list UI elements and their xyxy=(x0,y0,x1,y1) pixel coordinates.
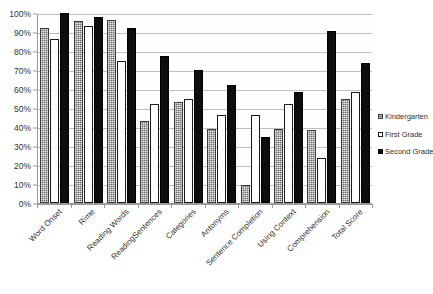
bar-group xyxy=(238,14,271,203)
legend-swatch-icon xyxy=(378,132,383,137)
bar-first xyxy=(317,158,326,203)
y-axis-tick-label: 20% xyxy=(14,162,31,171)
bar-group xyxy=(172,14,205,203)
x-axis-labels: Word OnsetRimeReading WordsReadingSenten… xyxy=(37,208,372,294)
bar-first xyxy=(50,39,59,203)
legend-label: Kindergarten xyxy=(385,113,428,121)
legend-label: First Grade xyxy=(385,131,423,139)
bar-kindergarten xyxy=(174,102,183,203)
bar-second xyxy=(361,63,370,203)
y-axis-tick-label: 30% xyxy=(14,143,31,152)
bar-second xyxy=(194,70,203,203)
bar-group xyxy=(105,14,138,203)
bar-first xyxy=(184,99,193,204)
bar-second xyxy=(227,85,236,203)
y-axis-tick-label: 0% xyxy=(19,200,31,209)
x-axis-tick xyxy=(372,204,373,208)
y-axis: 0%10%20%30%40%50%60%70%80%90%100% xyxy=(0,14,34,204)
y-axis-tick-label: 90% xyxy=(14,29,31,38)
bar-second xyxy=(94,17,103,203)
bar-kindergarten xyxy=(107,20,116,203)
bar-second xyxy=(127,28,136,203)
bar-first xyxy=(251,115,260,203)
chart-legend: KindergartenFirst GradeSecond Grade xyxy=(378,113,431,166)
bar-kindergarten xyxy=(140,121,149,203)
y-axis-tick-label: 10% xyxy=(14,181,31,190)
y-axis-tick-label: 100% xyxy=(9,10,31,19)
bar-group xyxy=(305,14,338,203)
bar-group xyxy=(272,14,305,203)
bar-group xyxy=(138,14,171,203)
x-axis-category-label: Rime xyxy=(78,208,97,227)
bar-first xyxy=(117,61,126,204)
x-axis-category-label: Categories xyxy=(164,208,197,241)
bar-second xyxy=(160,56,169,203)
bar-first xyxy=(351,92,360,203)
legend-item-second[interactable]: Second Grade xyxy=(378,148,431,156)
bar-groups xyxy=(38,14,372,203)
y-axis-tick-label: 50% xyxy=(14,105,31,114)
bar-second xyxy=(261,137,270,203)
bar-kindergarten xyxy=(307,130,316,203)
bar-group xyxy=(339,14,372,203)
bar-kindergarten xyxy=(40,28,49,203)
y-axis-tick-label: 70% xyxy=(14,67,31,76)
bar-kindergarten xyxy=(274,129,283,203)
bar-group xyxy=(205,14,238,203)
legend-label: Second Grade xyxy=(385,148,433,156)
legend-swatch-icon xyxy=(378,114,383,119)
legend-swatch-icon xyxy=(378,149,383,154)
bar-second xyxy=(60,13,69,203)
bar-first xyxy=(217,115,226,203)
bar-kindergarten xyxy=(341,99,350,204)
x-axis-category-label: Word Onset xyxy=(28,208,64,244)
bar-first xyxy=(84,26,93,203)
legend-item-kindergarten[interactable]: Kindergarten xyxy=(378,113,431,121)
x-axis-category-label: Antonyms xyxy=(200,208,231,239)
bar-group xyxy=(38,14,71,203)
legend-item-first[interactable]: First Grade xyxy=(378,131,431,139)
y-axis-tick-label: 60% xyxy=(14,86,31,95)
y-axis-tick-label: 40% xyxy=(14,124,31,133)
bar-second xyxy=(294,92,303,203)
bar-second xyxy=(327,31,336,203)
plot-area xyxy=(37,14,372,204)
x-axis-category-label: Total Score xyxy=(331,208,365,242)
bar-kindergarten xyxy=(241,185,250,203)
bar-kindergarten xyxy=(74,21,83,203)
y-axis-tick-label: 80% xyxy=(14,48,31,57)
bar-first xyxy=(284,104,293,203)
bar-group xyxy=(71,14,104,203)
bar-kindergarten xyxy=(207,129,216,203)
bar-first xyxy=(150,104,159,203)
